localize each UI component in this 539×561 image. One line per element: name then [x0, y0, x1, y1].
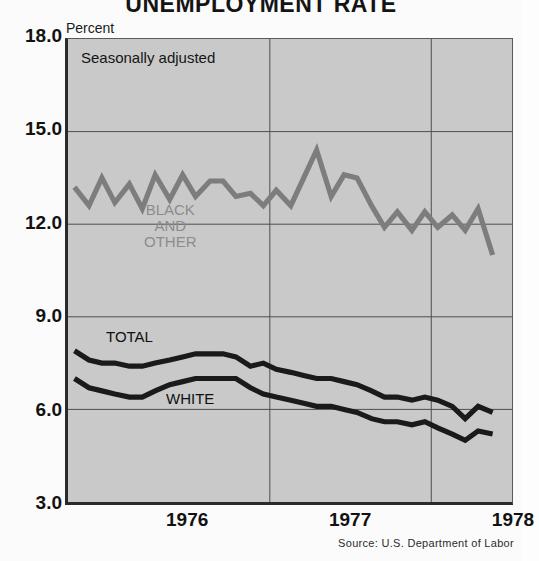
series-label-black-and-other: BLACK AND OTHER: [144, 202, 197, 250]
x-axis-tick-label: 1978: [463, 509, 539, 531]
page-title: UNEMPLOYMENT RATE: [0, 0, 522, 18]
series-line-total: [74, 351, 492, 419]
y-axis-tick-label: 9.0: [2, 305, 62, 327]
y-axis-tick-label: 18.0: [2, 25, 62, 47]
series-label-white: WHITE: [166, 390, 214, 407]
x-axis-tick-label: 1977: [300, 509, 400, 531]
x-axis-tick-label: 1976: [137, 509, 237, 531]
y-axis-tick-label: 12.0: [2, 212, 62, 234]
x-axis-tick-group: 197619771978: [65, 509, 513, 539]
y-axis-tick-group: 18.015.012.09.06.03.0: [0, 38, 62, 505]
y-axis-tick-label: 6.0: [2, 399, 62, 421]
series-label-total: TOTAL: [106, 328, 153, 345]
source-note: Source: U.S. Department of Labor: [338, 537, 514, 549]
y-axis-unit-label: Percent: [66, 20, 114, 36]
vertical-gridlines: [270, 39, 431, 502]
series-canvas: [68, 39, 512, 502]
seasonally-adjusted-note: Seasonally adjusted: [81, 49, 215, 66]
y-axis-tick-label: 15.0: [2, 118, 62, 140]
plot-area: Seasonally adjusted BLACK AND OTHER TOTA…: [65, 38, 513, 505]
series-group: [74, 150, 492, 440]
series-line-black-and-other: [74, 150, 492, 255]
y-axis-tick-label: 3.0: [2, 492, 62, 514]
